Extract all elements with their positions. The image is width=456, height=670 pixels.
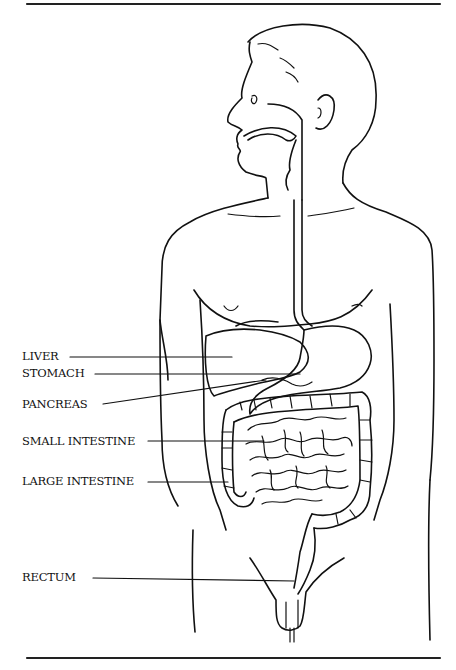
large-intestine-organ [222,392,372,594]
pancreas-leader-line [103,380,266,404]
pancreas-organ [262,378,312,386]
label-liver: LIVER [22,349,59,363]
label-pancreas: PANCREAS [22,397,88,411]
label-large-intestine: LARGE INTESTINE [22,474,134,488]
label-small-intestine: SMALL INTESTINE [22,434,135,448]
label-stomach: STOMACH [22,366,85,380]
head-outline [228,24,376,200]
small-intestine-organ [246,417,352,504]
liver-organ [205,329,308,396]
label-rectum: RECTUM [22,570,76,584]
esophagus [294,200,312,330]
